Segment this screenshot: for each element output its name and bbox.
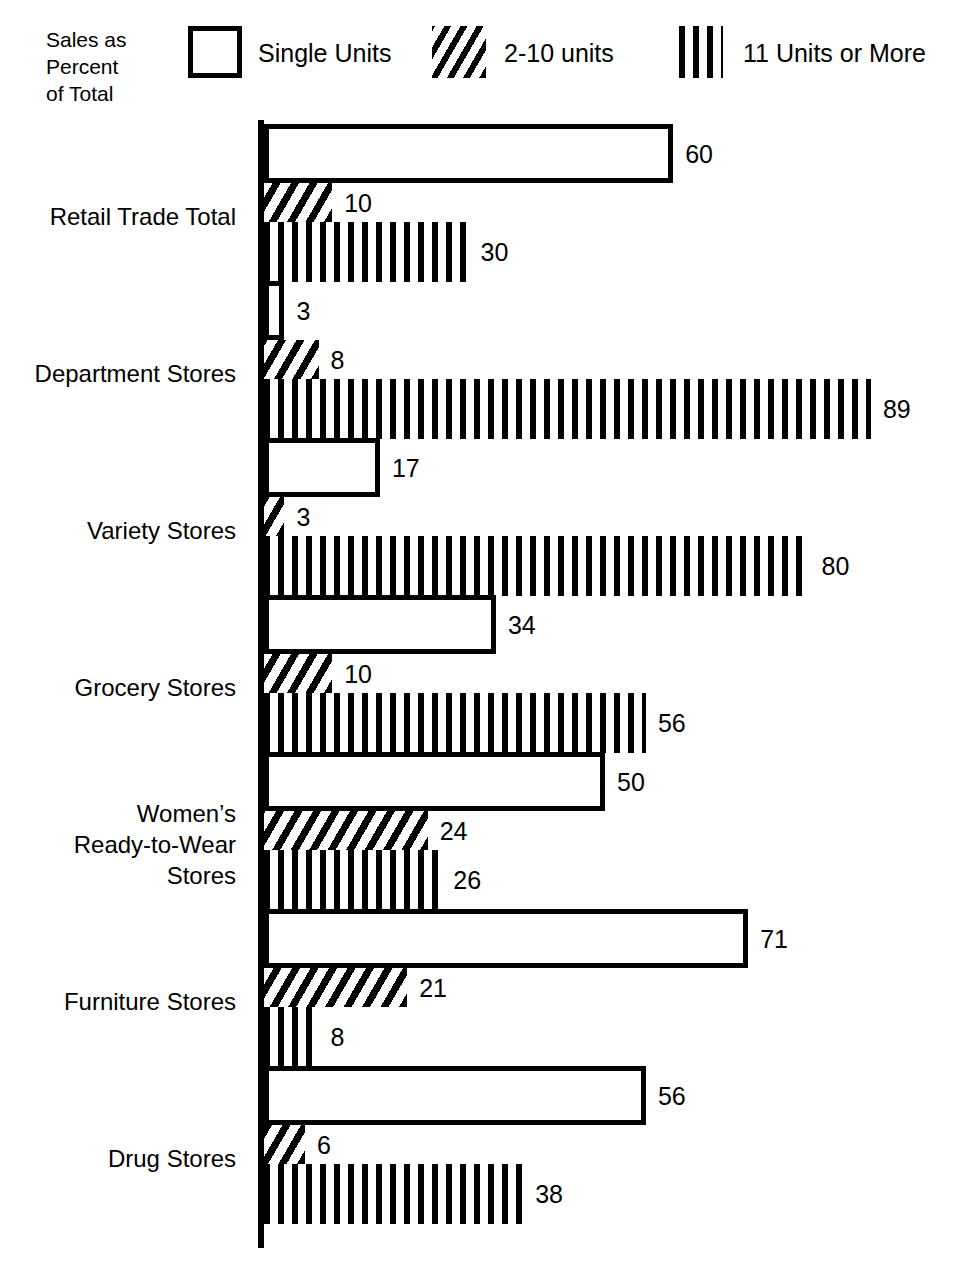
bar-2-10-units — [264, 497, 284, 536]
chart-root: Sales as Percent of Total Single Units 2… — [0, 0, 958, 1282]
open-box-swatch-icon — [188, 26, 242, 78]
legend-caption: Sales as Percent of Total — [46, 26, 181, 107]
bar-value-label: 3 — [296, 299, 310, 324]
bar-2-10-units — [264, 654, 332, 693]
bar-11-units-or-more — [264, 693, 646, 753]
bar-11-units-or-more — [264, 1164, 523, 1224]
legend-label-2-10-units: 2-10 units — [504, 39, 614, 67]
category-label: Grocery Stores — [75, 672, 236, 703]
bar-single-units — [264, 595, 496, 654]
bar-single-units — [264, 438, 380, 497]
bar-value-label: 60 — [685, 142, 713, 167]
bar-single-units — [264, 909, 748, 968]
bar-11-units-or-more — [264, 222, 469, 282]
bar-value-label: 26 — [453, 868, 481, 893]
bar-value-label: 38 — [535, 1182, 563, 1207]
category-label: Variety Stores — [87, 515, 236, 546]
bar-single-units — [264, 1066, 646, 1125]
bar-value-label: 3 — [296, 505, 310, 530]
bar-value-label: 10 — [344, 191, 372, 216]
category-label: Women’s Ready-to-Wear Stores — [74, 798, 236, 891]
bar-11-units-or-more — [264, 379, 871, 439]
category-label: Drug Stores — [108, 1143, 236, 1174]
bar-value-label: 8 — [331, 1025, 345, 1050]
bar-value-label: 24 — [440, 819, 468, 844]
legend-label-11-units-or-more: 11 Units or More — [743, 39, 926, 67]
bar-single-units — [264, 752, 605, 811]
legend-label-single-units: Single Units — [258, 39, 391, 67]
bar-11-units-or-more — [264, 536, 810, 596]
bar-value-label: 10 — [344, 662, 372, 687]
bar-single-units — [264, 124, 673, 183]
bar-2-10-units — [264, 968, 407, 1007]
bar-11-units-or-more — [264, 850, 441, 910]
bar-value-label: 8 — [331, 348, 345, 373]
bar-2-10-units — [264, 811, 428, 850]
bar-value-label: 89 — [883, 397, 911, 422]
bar-value-label: 71 — [760, 927, 788, 952]
bar-2-10-units — [264, 1125, 305, 1164]
vertical-lines-swatch-icon — [679, 26, 723, 78]
bar-2-10-units — [264, 183, 332, 222]
bar-value-label: 56 — [658, 711, 686, 736]
category-label: Furniture Stores — [64, 986, 236, 1017]
bar-value-label: 34 — [508, 613, 536, 638]
bar-value-label: 80 — [822, 554, 850, 579]
category-label: Department Stores — [35, 358, 236, 389]
bar-value-label: 21 — [419, 976, 447, 1001]
bar-11-units-or-more — [264, 1007, 319, 1067]
bar-value-label: 30 — [481, 240, 509, 265]
bar-value-label: 50 — [617, 770, 645, 795]
bar-2-10-units — [264, 340, 319, 379]
bar-single-units — [264, 281, 284, 340]
diagonal-hatch-swatch-icon — [432, 26, 486, 78]
bar-value-label: 6 — [317, 1133, 331, 1158]
bar-value-label: 17 — [392, 456, 420, 481]
category-label: Retail Trade Total — [50, 201, 236, 232]
bar-value-label: 56 — [658, 1084, 686, 1109]
